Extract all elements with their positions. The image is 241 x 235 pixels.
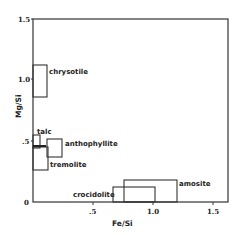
chart: 1.5 1.0 .5 0 Mg/Si .5 1.0 1.5 Fe/Si chry… [0, 0, 241, 235]
box-amosite [124, 180, 177, 202]
x-tick-0.5: .5 [89, 207, 96, 216]
x-tick-1.5: 1.5 [207, 207, 219, 216]
label-amosite: amosite [179, 180, 211, 188]
y-tick-1.5: 1.5 [18, 15, 30, 24]
x-axis: .5 1.0 1.5 Fe/Si [89, 202, 219, 228]
box-tremolite [33, 147, 48, 170]
label-chrysotile: chrysotile [49, 68, 88, 76]
y-axis: 1.5 1.0 .5 0 Mg/Si [14, 15, 33, 207]
y-axis-label: Mg/Si [14, 94, 23, 118]
box-chrysotile [33, 65, 47, 97]
label-tremolite: tremolite [50, 161, 87, 169]
label-talc: talc [37, 128, 52, 136]
y-tick-0: 0 [24, 198, 29, 207]
box-crocidolite [113, 187, 155, 202]
label-crocidolite: crocidolite [73, 191, 115, 199]
y-tick-1.0: 1.0 [18, 75, 30, 84]
x-tick-1.0: 1.0 [147, 207, 159, 216]
box-anthophyllite [47, 139, 62, 157]
y-tick-0.5: .5 [22, 137, 29, 146]
plot-frame [33, 19, 228, 202]
label-anthophyllite: anthophyllite [65, 140, 118, 148]
x-axis-label: Fe/Si [112, 219, 133, 228]
